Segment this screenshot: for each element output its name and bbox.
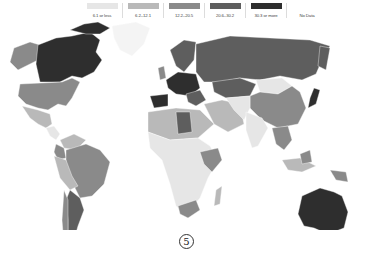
- region-russia: [196, 36, 330, 82]
- legend-item-5: 30.3 or more: [246, 3, 287, 18]
- legend-swatch: [251, 3, 282, 9]
- legend-item-2: 6.2–12.1: [123, 3, 164, 18]
- world-map: [0, 20, 377, 230]
- legend-label: 6.1 or less: [93, 13, 112, 18]
- legend-label: 30.3 or more: [254, 13, 277, 18]
- legend-swatch: [292, 3, 323, 9]
- region-brazil: [66, 144, 110, 198]
- region-spain: [150, 94, 168, 108]
- legend-swatch: [169, 3, 200, 9]
- legend-label: No Data: [299, 13, 314, 18]
- region-papua-new-guinea: [330, 170, 348, 182]
- region-kazakhstan: [212, 78, 256, 98]
- region-japan: [308, 88, 320, 108]
- region-sub-saharan-africa: [148, 132, 218, 214]
- region-madagascar: [214, 186, 222, 206]
- legend-item-6: No Data: [287, 3, 327, 18]
- legend-swatch: [128, 3, 159, 9]
- legend-item-3: 12.2–20.5: [164, 3, 205, 18]
- region-alaska: [10, 42, 40, 70]
- region-greenland: [112, 22, 150, 56]
- region-central-america: [46, 126, 60, 140]
- region-canada: [36, 32, 102, 82]
- region-borneo: [300, 150, 312, 164]
- region-united-states: [18, 78, 80, 110]
- map-legend: 6.1 or less 6.2–12.1 12.2–20.5 20.6–30.2…: [82, 3, 327, 18]
- legend-label: 20.6–30.2: [216, 13, 234, 18]
- region-kamchatka: [318, 46, 330, 70]
- region-uk: [158, 66, 166, 80]
- region-scandinavia: [170, 40, 196, 72]
- legend-item-4: 20.6–30.2: [205, 3, 246, 18]
- region-australia: [298, 188, 348, 230]
- legend-swatch: [210, 3, 241, 9]
- legend-label: 6.2–12.1: [135, 13, 151, 18]
- page-number-badge: 5: [179, 234, 194, 249]
- legend-swatch: [87, 3, 118, 9]
- legend-item-1: 6.1 or less: [82, 3, 123, 18]
- region-libya: [176, 112, 192, 134]
- region-arctic-islands: [70, 22, 110, 34]
- region-southeast-asia: [272, 126, 292, 150]
- legend-label: 12.2–20.5: [175, 13, 193, 18]
- region-chile: [62, 190, 68, 230]
